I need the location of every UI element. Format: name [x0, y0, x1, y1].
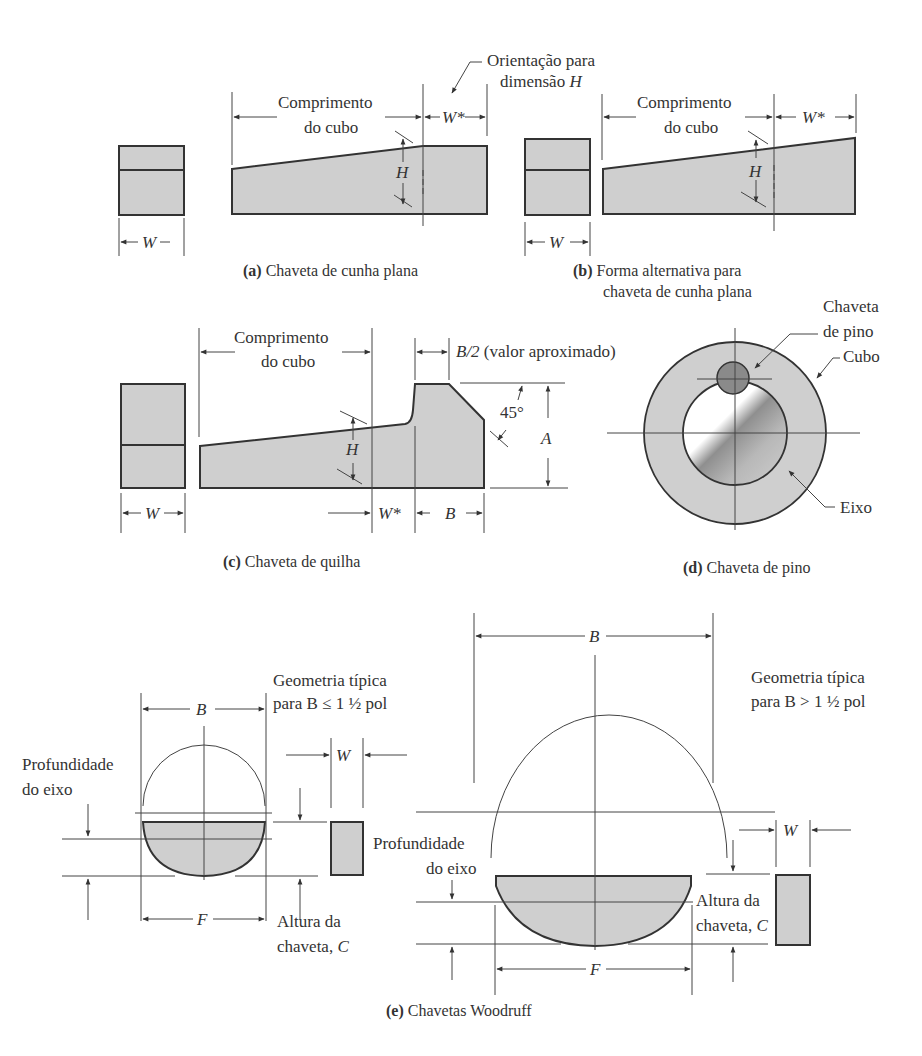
- dim-b-c: B: [445, 504, 456, 523]
- side-view-b: Comprimento do cubo W* H: [602, 93, 856, 231]
- hub-label: Cubo: [843, 347, 880, 366]
- pin-key-circle: [717, 362, 749, 394]
- dim-b-small: B: [196, 700, 207, 719]
- shaft-depth-label-large-2: do eixo: [426, 859, 477, 878]
- dim-b-large: B: [589, 627, 600, 646]
- dim-w-star-b: W*: [802, 108, 825, 127]
- key-types-diagram: W Comprimento do cubo W* H Orientação pa…: [0, 0, 922, 1056]
- shaft-depth-label-small: Profundidade: [22, 755, 114, 774]
- end-view-c: W: [121, 384, 185, 533]
- hub-length-label-b-2: do cubo: [664, 118, 718, 137]
- geometry-note-large: Geometria típica: [751, 668, 865, 687]
- dim-w-star-c: W*: [378, 504, 401, 523]
- caption-a: (a) Chaveta de cunha plana: [243, 262, 418, 280]
- key-height-label-small-2: chaveta, C: [277, 937, 349, 956]
- dim-angle-c: 45°: [500, 403, 524, 422]
- shaft-label: Eixo: [840, 498, 872, 517]
- dim-f-large: F: [589, 960, 601, 979]
- dim-w-a: W: [142, 233, 158, 252]
- caption-c: (c) Chaveta de quilha: [223, 553, 360, 571]
- panel-b-alternative-flat-wedge-key: W Comprimento do cubo W* H (b) Forma alt…: [525, 93, 856, 301]
- shaft-depth-label-large: Profundidade: [373, 834, 465, 853]
- dim-h-c: H: [345, 440, 360, 459]
- panel-e-woodruff-small: B F Profundidade do eixo Altura da chave…: [22, 671, 407, 956]
- hub-length-label-c-2: do cubo: [261, 352, 315, 371]
- dim-f-small: F: [196, 910, 208, 929]
- pin-key-label: Chaveta: [823, 297, 879, 316]
- dim-b-half-c: B/2 (valor aproximado): [456, 342, 616, 361]
- end-view-a: W: [119, 146, 184, 256]
- caption-d: (d) Chaveta de pino: [683, 559, 811, 577]
- dim-w-large: W: [783, 821, 799, 840]
- dim-h-b: H: [748, 162, 763, 181]
- hub-length-label-a: Comprimento: [278, 93, 372, 112]
- panel-d-pin-key: Chaveta de pino Cubo Eixo (d) Chaveta de…: [607, 297, 880, 577]
- dim-w-star-a: W*: [442, 108, 465, 127]
- caption-e: (e) Chavetas Woodruff: [386, 1002, 532, 1020]
- hub-length-label-b: Comprimento: [637, 93, 731, 112]
- hub-length-label-c: Comprimento: [234, 328, 328, 347]
- key-height-label-large-2: chaveta, C: [696, 916, 768, 935]
- dim-h-a: H: [395, 163, 410, 182]
- key-height-label-small: Altura da: [277, 912, 341, 931]
- key-height-label-large: Altura da: [696, 891, 760, 910]
- geometry-note-large-2: para B > 1 ½ pol: [751, 692, 866, 711]
- caption-b-2: chaveta de cunha plana: [603, 283, 752, 301]
- orientation-note-line1: Orientação para: [487, 51, 596, 70]
- dim-w-c: W: [145, 504, 161, 523]
- orientation-note-line2: dimensão H: [500, 72, 583, 91]
- shaft-depth-label-small-2: do eixo: [22, 780, 73, 799]
- panel-e-woodruff-large: B F Profundidade do eixo Altura da chave…: [373, 613, 866, 995]
- end-view-woodruff-large: [776, 875, 810, 945]
- end-view-woodruff-small: [331, 822, 363, 875]
- dim-w-b: W: [549, 233, 565, 252]
- side-view-c: Comprimento do cubo B/2 (valor aproximad…: [199, 328, 616, 533]
- geometry-note-small: Geometria típica: [273, 671, 387, 690]
- pin-key-label-2: de pino: [823, 322, 874, 341]
- hub-length-label-a-2: do cubo: [304, 118, 358, 137]
- dim-w-small: W: [336, 746, 352, 765]
- caption-b: (b) Forma alternativa para: [573, 262, 741, 280]
- geometry-note-small-2: para B ≤ 1 ½ pol: [273, 694, 387, 713]
- end-view-b: W: [525, 139, 590, 256]
- panel-c-gib-head-key: W Comprimento do cubo B/2 (valor aproxim…: [121, 328, 616, 571]
- dim-a-c: A: [540, 429, 552, 448]
